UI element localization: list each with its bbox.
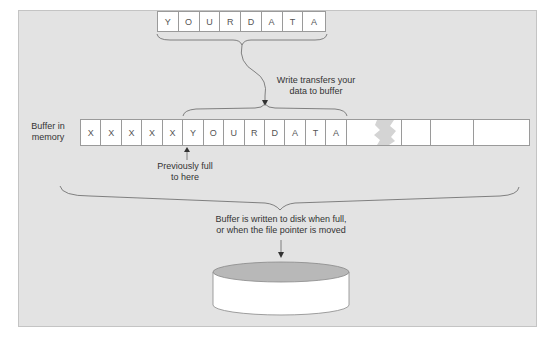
buffer-row: X X X X X Y O U R D A T A (80, 119, 530, 146)
data-cell: A (303, 12, 325, 31)
buffer-cell: X (122, 120, 142, 145)
buffer-label-line2: memory (22, 132, 74, 143)
buffer-empty-cell (431, 120, 474, 145)
buffer-cell: O (204, 120, 224, 145)
your-data-row: Y O U R D A T A (157, 11, 326, 32)
pointer-label-line2: to here (150, 172, 220, 183)
disk-label-line1: Buffer is written to disk when full, (196, 214, 366, 225)
diagram-panel (18, 10, 537, 327)
pointer-label-line1: Previously full (150, 161, 220, 172)
buffer-cell: X (81, 120, 101, 145)
buffer-cell: R (245, 120, 265, 145)
write-label-line2: data to buffer (266, 86, 366, 97)
disk-label-line2: or when the file pointer is moved (196, 225, 366, 236)
buffer-empty-cell (474, 120, 529, 145)
data-cell: U (200, 12, 221, 31)
data-cell: R (220, 12, 241, 31)
write-label-line1: Write transfers your (266, 75, 366, 86)
data-cell: T (283, 12, 304, 31)
buffer-empty-cell (402, 120, 432, 145)
data-cell: A (262, 12, 283, 31)
buffer-empty-cell (347, 120, 402, 145)
buffer-cell: X (142, 120, 162, 145)
buffer-cell: U (224, 120, 244, 145)
buffer-cell: A (285, 120, 305, 145)
buffer-cell: T (306, 120, 326, 145)
buffer-cell: D (265, 120, 285, 145)
data-cell: Y (158, 12, 179, 31)
buffer-label-line1: Buffer in (22, 121, 74, 132)
previously-full-label: Previously full to here (150, 161, 220, 183)
buffer-cell: A (326, 120, 346, 145)
write-transfers-label: Write transfers your data to buffer (266, 75, 366, 97)
data-cell: O (179, 12, 200, 31)
disk-write-label: Buffer is written to disk when full, or … (196, 214, 366, 236)
buffer-cell: Y (183, 120, 203, 145)
data-cell: D (241, 12, 262, 31)
buffer-cell: X (163, 120, 183, 145)
buffer-in-memory-label: Buffer in memory (22, 121, 74, 143)
buffer-cell: X (101, 120, 121, 145)
